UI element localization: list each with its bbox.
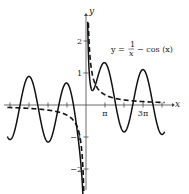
svg-text:2: 2 — [77, 37, 82, 46]
chart-title: y = 1 x − cos (x) — [110, 40, 173, 58]
reciprocal-curve-right — [88, 23, 164, 103]
svg-text:π: π — [102, 109, 107, 118]
title-lhs: y = — [110, 45, 125, 54]
svg-text:1: 1 — [77, 69, 82, 78]
x-axis-label: x — [175, 99, 180, 109]
reciprocal-curve-left — [7, 107, 84, 194]
title-rhs: − cos (x) — [137, 45, 173, 54]
title-denominator: x — [129, 49, 134, 58]
svg-text:−1: −1 — [70, 133, 82, 142]
svg-text:3π: 3π — [138, 109, 148, 118]
svg-text:−2: −2 — [70, 165, 82, 174]
function-curve-right — [88, 22, 165, 135]
y-axis-label: y — [88, 6, 95, 16]
tick-labels: π3π21−1−2 — [70, 37, 148, 174]
function-plot: y x y = 1 x − cos (x) π3π21−1−2 — [0, 0, 189, 194]
title-numerator: 1 — [130, 40, 135, 49]
